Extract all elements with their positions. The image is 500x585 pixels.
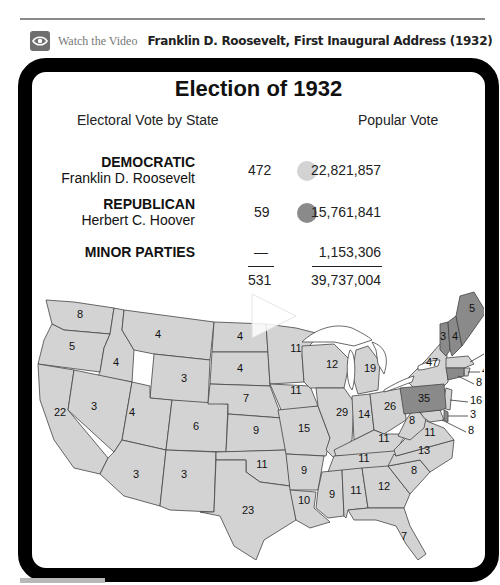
state-fl [348, 508, 426, 560]
svg-text:4: 4 [113, 356, 119, 368]
svg-text:3: 3 [133, 468, 139, 480]
lake-superior [302, 326, 372, 346]
svg-text:4: 4 [129, 406, 135, 418]
svg-text:12: 12 [378, 480, 390, 492]
svg-text:7: 7 [243, 392, 249, 404]
party-name: DEMOCRATIC [101, 154, 195, 170]
svg-text:11: 11 [350, 484, 361, 496]
svg-text:22: 22 [54, 406, 66, 418]
lake-michigan [347, 350, 355, 390]
svg-text:3: 3 [470, 408, 476, 420]
svg-text:8: 8 [77, 308, 83, 320]
watch-video-label[interactable]: Watch the Video [58, 34, 137, 49]
candidate-name: Franklin D. Roosevelt [61, 170, 195, 186]
bottom-divider [20, 578, 105, 583]
state-de [444, 410, 448, 422]
figure-title: Election of 1932 [32, 76, 485, 102]
state-nm [160, 450, 216, 512]
svg-text:9: 9 [329, 488, 335, 500]
popular-count: 22,821,857 [311, 162, 381, 178]
electoral-count: 59 [254, 204, 270, 220]
popular-vote-header: Popular Vote [358, 112, 438, 128]
top-divider [20, 18, 485, 20]
svg-text:19: 19 [364, 362, 376, 374]
figure-frame: Election of 1932 Electoral Vote by State… [18, 58, 499, 582]
candidate-name: Herbert C. Hoover [81, 212, 195, 228]
svg-text:4: 4 [482, 364, 484, 376]
svg-text:11: 11 [378, 432, 389, 444]
party-name: MINOR PARTIES [85, 244, 195, 260]
eye-icon[interactable] [30, 31, 50, 51]
popular-count: 1,153,306 [319, 244, 381, 260]
svg-text:11: 11 [290, 342, 301, 354]
svg-text:35: 35 [418, 392, 430, 404]
svg-text:9: 9 [253, 424, 259, 436]
svg-text:4: 4 [237, 362, 243, 374]
legend-row-republican: REPUBLICAN Herbert C. Hoover 59 15,761,8… [32, 196, 485, 232]
svg-text:23: 23 [242, 504, 254, 516]
svg-text:26: 26 [384, 400, 396, 412]
svg-text:7: 7 [401, 530, 407, 542]
watch-video-bar[interactable]: Watch the Video Franklin D. Roosevelt, F… [30, 30, 492, 52]
svg-text:8: 8 [409, 414, 415, 426]
svg-text:13: 13 [418, 444, 430, 456]
svg-text:3: 3 [91, 400, 97, 412]
svg-text:15: 15 [298, 422, 310, 434]
svg-text:12: 12 [326, 358, 338, 370]
us-electoral-map: 8 5 22 4 3 4 3 4 3 6 3 4 4 7 9 11 23 11 … [34, 290, 484, 560]
svg-text:9: 9 [301, 464, 307, 476]
state-mt [122, 310, 214, 360]
svg-text:8: 8 [468, 424, 474, 436]
popular-total: 39,737,004 [311, 272, 381, 288]
svg-text:8: 8 [411, 464, 417, 476]
electoral-vote-header: Electoral Vote by State [77, 112, 219, 128]
svg-text:29: 29 [336, 406, 348, 418]
popular-total-rule [312, 266, 382, 267]
svg-text:3: 3 [440, 330, 446, 342]
svg-text:11: 11 [290, 384, 301, 396]
svg-text:16: 16 [470, 394, 482, 406]
legend-row-democratic: DEMOCRATIC Franklin D. Roosevelt 472 22,… [32, 154, 485, 190]
svg-text:11: 11 [358, 452, 369, 464]
state-ct [446, 368, 464, 380]
svg-text:11: 11 [424, 426, 435, 438]
svg-text:4: 4 [237, 330, 243, 342]
svg-text:4: 4 [155, 328, 161, 340]
electoral-count: 472 [248, 162, 271, 178]
electoral-count: — [254, 244, 268, 260]
svg-text:8: 8 [476, 376, 482, 388]
state-me [456, 292, 484, 346]
video-title-link[interactable]: Franklin D. Roosevelt, First Inaugural A… [147, 34, 492, 48]
svg-text:5: 5 [469, 302, 475, 314]
svg-text:6: 6 [193, 420, 199, 432]
svg-text:3: 3 [181, 468, 187, 480]
svg-text:4: 4 [452, 330, 458, 342]
svg-text:3: 3 [181, 372, 187, 384]
electoral-total-rule [248, 266, 274, 267]
party-name: REPUBLICAN [103, 196, 195, 212]
electoral-total: 531 [248, 272, 271, 288]
popular-count: 15,761,841 [311, 204, 381, 220]
svg-text:14: 14 [358, 408, 370, 420]
svg-text:10: 10 [298, 494, 310, 506]
svg-text:47: 47 [426, 356, 438, 368]
svg-text:5: 5 [69, 340, 75, 352]
state-ma [446, 356, 474, 368]
svg-text:11: 11 [256, 458, 267, 470]
